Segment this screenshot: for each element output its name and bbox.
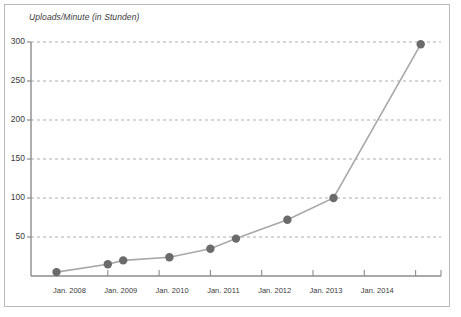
gridlines-group (31, 42, 441, 237)
y-axis-tick-label: 250 (0, 75, 25, 85)
data-point-marker: Mrz 2010: 24 (165, 253, 173, 261)
data-point-markers-group: Jan. 2008: 5Jan. 2009: 15Mai 2009: 20Mrz… (52, 40, 425, 276)
data-point-marker: Jan. 2008: 5 (52, 268, 60, 276)
data-point-marker: Jan. 2011: 35 (206, 245, 214, 253)
data-point-marker: Jan. 2012: 72 (283, 216, 291, 224)
y-axis-tick-label: 200 (0, 114, 25, 124)
data-point-marker: Mai 2009: 20 (119, 256, 127, 264)
data-point-marker: Mai 2013: 100 (329, 194, 337, 202)
y-axis-tick-label: 100 (0, 192, 25, 202)
y-axis-tick-label: 150 (0, 153, 25, 163)
chart-screenshot: Uploads/Minute (in Stunden) Jan. 2008: 5… (0, 0, 461, 317)
y-axis-tick-label: 300 (0, 36, 25, 46)
y-axis-tick-label: 50 (0, 231, 25, 241)
data-point-marker: Mai 2011: 48 (232, 234, 240, 242)
data-point-marker: Jan. 2009: 15 (104, 260, 112, 268)
data-point-marker: Mrz 2015: 297 (417, 40, 425, 48)
line-chart-plot: Jan. 2008: 5Jan. 2009: 15Mai 2009: 20Mrz… (0, 0, 461, 317)
x-tick-marks-group (57, 270, 442, 276)
x-axis-tick-label: Jan. 2014 (347, 286, 407, 295)
